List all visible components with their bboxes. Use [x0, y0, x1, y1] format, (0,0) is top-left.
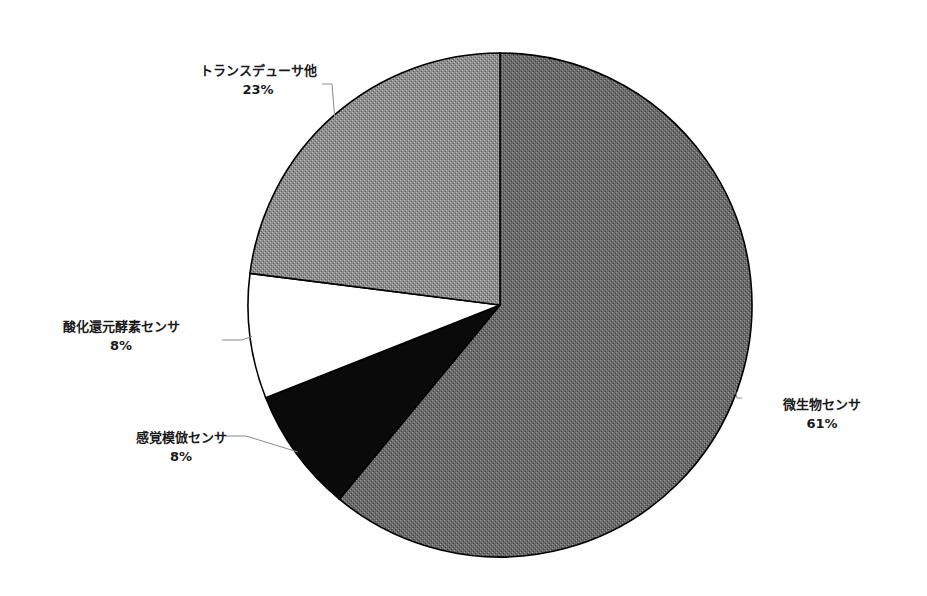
slice-value-microbial-sensor: 61% [806, 416, 837, 431]
slice-label-transducer-other: トランスデューサ他 [200, 63, 317, 78]
slice-label-sensory-mimic-sensor: 感覚模倣センサ [136, 430, 227, 445]
leader-line-transducer-other [322, 84, 335, 117]
leader-line-redox-enzyme-sensor [222, 336, 252, 340]
pie-slice-transducer-other [250, 53, 500, 305]
pie-slices [248, 53, 752, 557]
pie-chart: 微生物センサ 61% 感覚模倣センサ 8% 酸化還元酵素センサ 8% トランスデ… [0, 0, 927, 596]
slice-value-redox-enzyme-sensor: 8% [110, 338, 132, 353]
slice-value-sensory-mimic-sensor: 8% [170, 449, 192, 464]
slice-value-transducer-other: 23% [242, 82, 273, 97]
slice-label-redox-enzyme-sensor: 酸化還元酵素センサ [63, 319, 180, 334]
slice-label-microbial-sensor: 微生物センサ [782, 397, 861, 412]
